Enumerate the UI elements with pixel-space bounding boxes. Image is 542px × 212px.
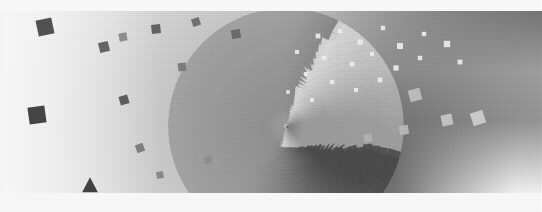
vortex-render-surface xyxy=(0,0,542,212)
artwork-canvas-frame xyxy=(0,0,542,212)
